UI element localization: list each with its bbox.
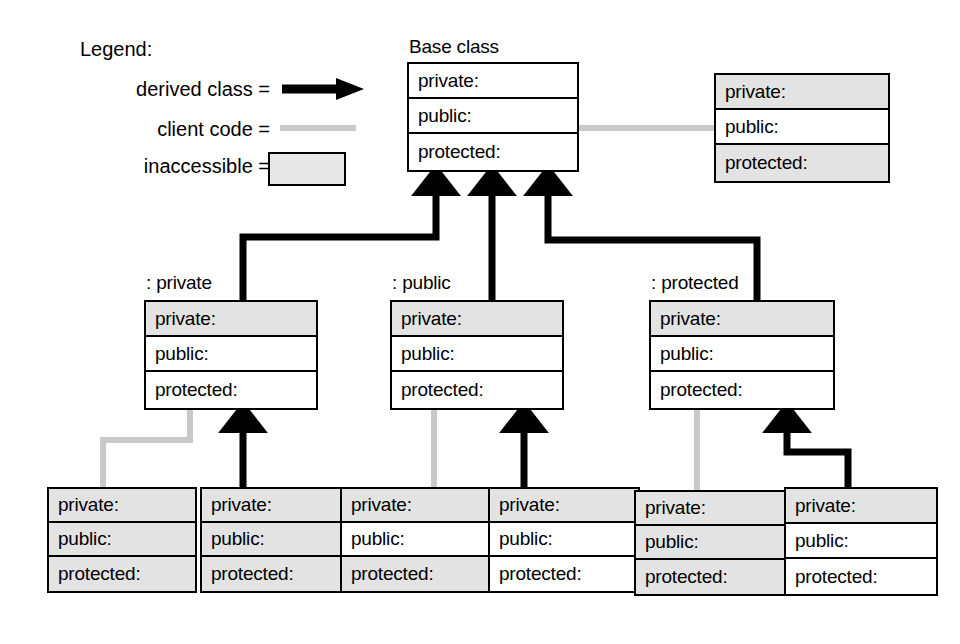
client-line-private <box>103 410 190 487</box>
row-protected: protected: <box>202 557 348 591</box>
row-protected: protected: <box>342 557 490 591</box>
class-box-public-derived: private: public: protected: <box>488 487 640 593</box>
legend-label-inaccessible: inaccessible = <box>20 155 270 178</box>
row-protected: protected: <box>409 134 577 170</box>
caption-base-class: Base class <box>409 36 499 58</box>
class-box-base-client: private: public: protected: <box>714 73 890 183</box>
row-public: public: <box>636 526 784 560</box>
class-box-derived-public: private: public: protected: <box>390 300 564 410</box>
row-protected: protected: <box>49 557 195 591</box>
row-protected: protected: <box>786 559 936 594</box>
row-private: private: <box>49 489 195 523</box>
derived-class-arrow-icon <box>280 76 370 102</box>
row-public: public: <box>409 99 577 134</box>
legend-label-derived-class: derived class = <box>20 78 270 101</box>
class-box-protected-derived: private: public: protected: <box>784 487 938 596</box>
legend-title: Legend: <box>80 38 152 61</box>
row-private: private: <box>202 489 348 523</box>
class-box-protected-client: private: public: protected: <box>634 490 786 596</box>
row-protected: protected: <box>651 372 833 408</box>
caption-derived-private: : private <box>146 272 212 294</box>
class-box-derived-private: private: public: protected: <box>144 300 318 410</box>
caption-derived-public: : public <box>392 272 451 294</box>
class-box-private-derived: private: public: protected: <box>200 487 350 593</box>
row-protected: protected: <box>392 372 562 408</box>
row-public: public: <box>392 337 562 372</box>
row-private: private: <box>716 75 888 110</box>
row-private: private: <box>146 302 316 337</box>
row-private: private: <box>490 489 638 523</box>
row-public: public: <box>202 523 348 557</box>
row-private: private: <box>786 489 936 524</box>
row-private: private: <box>342 489 490 523</box>
caption-derived-protected: : protected <box>651 272 739 294</box>
row-public: public: <box>651 337 833 372</box>
row-public: public: <box>49 523 195 557</box>
row-protected: protected: <box>716 145 888 181</box>
row-public: public: <box>490 523 638 557</box>
row-public: public: <box>716 110 888 145</box>
row-private: private: <box>636 492 784 526</box>
row-public: public: <box>342 523 490 557</box>
derived-arrow-into-protected <box>787 425 848 487</box>
row-private: private: <box>392 302 562 337</box>
inheritance-diagram: Legend: derived class = client code = in… <box>0 0 960 644</box>
row-protected: protected: <box>490 557 638 591</box>
row-protected: protected: <box>146 372 316 408</box>
row-protected: protected: <box>636 560 784 594</box>
row-private: private: <box>651 302 833 337</box>
class-box-base-class: private: public: protected: <box>407 62 579 172</box>
inaccessible-swatch-icon <box>268 152 346 186</box>
class-box-public-client: private: public: protected: <box>340 487 492 593</box>
client-code-line-icon <box>280 124 360 134</box>
row-public: public: <box>786 524 936 559</box>
class-box-private-client: private: public: protected: <box>47 487 197 593</box>
class-box-derived-protected: private: public: protected: <box>649 300 835 410</box>
legend-label-client-code: client code = <box>20 118 270 141</box>
row-public: public: <box>146 337 316 372</box>
row-private: private: <box>409 64 577 99</box>
